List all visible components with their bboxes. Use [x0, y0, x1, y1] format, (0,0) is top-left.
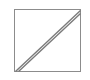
- geometric-figure: [0, 0, 90, 80]
